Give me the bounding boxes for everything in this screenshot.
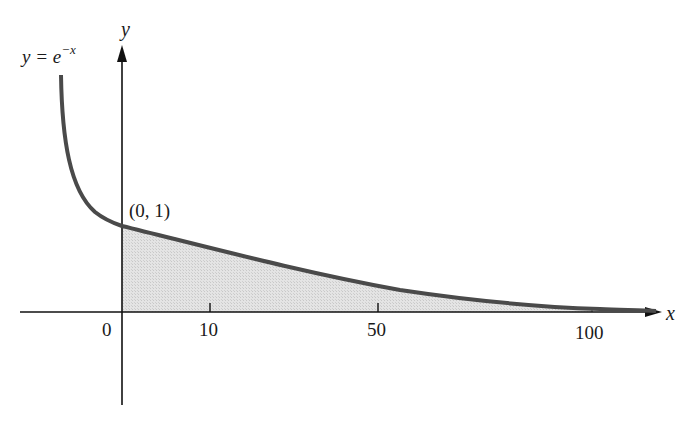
equation-exponent: −x	[61, 42, 76, 57]
tick-label-100: 100	[575, 322, 604, 344]
tick-label-50: 50	[367, 319, 386, 341]
equation-text: y = e	[22, 46, 61, 67]
tick-label-10: 10	[199, 319, 218, 341]
y-axis-arrow-icon	[117, 45, 127, 62]
plot-svg	[0, 0, 697, 422]
equation-label: y = e−x	[22, 44, 76, 68]
point-label: (0, 1)	[129, 200, 170, 222]
shaded-area	[122, 226, 592, 312]
y-axis-label: y	[121, 18, 130, 41]
x-axis-label: x	[666, 302, 675, 325]
exponential-area-figure: y = e−x y x (0, 1) 0 10 50 100	[0, 0, 697, 422]
tick-label-0: 0	[102, 319, 112, 341]
